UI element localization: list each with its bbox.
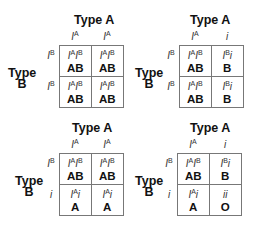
punnett-cell: IAi A — [178, 185, 210, 216]
top-allele: i — [217, 30, 237, 42]
side-label-line2: B — [135, 79, 163, 90]
punnett-cell: IBi B — [212, 46, 244, 77]
punnett-grid: IAIB AB IAIB AB IAi A IAi A — [59, 153, 124, 216]
side-parent-label: TypeB — [8, 68, 36, 90]
punnett-cell: ii O — [210, 185, 242, 216]
genotype: ii — [223, 186, 227, 201]
punnett-cell: IAIB AB — [92, 46, 124, 77]
genotype: IAIB — [100, 47, 115, 62]
genotype: IAIB — [188, 47, 203, 62]
punnett-grid: IAIB AB IBi B IAIB AB IBi B — [179, 45, 244, 108]
punnett-cell: IAIB AB — [60, 77, 92, 108]
left-allele: IB — [45, 157, 57, 169]
genotype: IAIB — [100, 155, 115, 170]
genotype: IBi — [222, 47, 232, 62]
punnett-cell: IAIB AB — [92, 77, 124, 108]
punnett-cell: IAIB AB — [178, 154, 210, 185]
punnett-cell: IAIB AB — [92, 154, 124, 185]
top-allele: IA — [185, 30, 205, 42]
phenotype: B — [223, 93, 231, 106]
phenotype: A — [189, 201, 197, 214]
punnett-cell: IAIB AB — [60, 46, 92, 77]
genotype: IAIB — [188, 78, 203, 93]
top-allele: i — [215, 138, 235, 150]
phenotype: AB — [67, 62, 84, 75]
side-parent-label: TypeB — [135, 68, 163, 90]
phenotype: AB — [187, 62, 204, 75]
side-label-line2: B — [135, 187, 163, 198]
punnett-cell: IBi B — [210, 154, 242, 185]
left-allele: i — [45, 188, 57, 200]
genotype: IBi — [220, 155, 230, 170]
punnett-cell: IAIB AB — [180, 77, 212, 108]
top-allele: IA — [65, 138, 85, 150]
left-allele: IB — [45, 80, 57, 92]
phenotype: AB — [99, 93, 116, 106]
top-parent-label: Type A — [72, 121, 112, 135]
genotype: IAIB — [186, 155, 201, 170]
punnett-cell: IAi A — [60, 185, 92, 216]
side-label-line2: B — [8, 79, 36, 90]
phenotype: AB — [187, 93, 204, 106]
phenotype: A — [103, 201, 111, 214]
top-parent-label: Type A — [190, 13, 230, 27]
phenotype: AB — [185, 170, 202, 183]
genotype: IAIB — [68, 155, 83, 170]
phenotype: B — [223, 62, 231, 75]
phenotype: AB — [67, 170, 84, 183]
left-allele: IB — [163, 157, 175, 169]
genotype: IAi — [70, 186, 80, 201]
punnett-grid: IAIB AB IAIB AB IAIB AB IAIB AB — [59, 45, 124, 108]
genotype: IBi — [222, 78, 232, 93]
top-allele: IA — [97, 30, 117, 42]
phenotype: B — [221, 170, 229, 183]
punnett-cell: IAIB AB — [180, 46, 212, 77]
side-parent-label: TypeB — [135, 176, 163, 198]
punnett-cell: IAi A — [92, 185, 124, 216]
genotype: IAIB — [68, 78, 83, 93]
top-allele: IA — [183, 138, 203, 150]
top-parent-label: Type A — [190, 121, 230, 135]
phenotype: O — [221, 201, 230, 214]
left-allele: IB — [165, 49, 177, 61]
punnett-square: Type ATypeBIAIAIBIB IAIB AB IAIB AB IAIB… — [0, 0, 128, 113]
phenotype: AB — [67, 93, 84, 106]
genotype: IAIB — [100, 78, 115, 93]
left-allele: IB — [45, 49, 57, 61]
punnett-square: Type ATypeBIAiIBi IAIB AB IBi B IAi A ii… — [127, 113, 255, 226]
phenotype: A — [71, 201, 79, 214]
phenotype: AB — [99, 62, 116, 75]
top-allele: IA — [65, 30, 85, 42]
left-allele: i — [163, 188, 175, 200]
top-parent-label: Type A — [74, 13, 114, 27]
genotype: IAi — [102, 186, 112, 201]
side-parent-label: TypeB — [15, 176, 43, 198]
punnett-cell: IAIB AB — [60, 154, 92, 185]
punnett-square: Type ATypeBIAiIBIB IAIB AB IBi B IAIB AB… — [127, 0, 255, 113]
phenotype: AB — [99, 170, 116, 183]
top-allele: IA — [97, 138, 117, 150]
genotype: IAi — [188, 186, 198, 201]
side-label-line2: B — [15, 187, 43, 198]
genotype: IAIB — [68, 47, 83, 62]
left-allele: IB — [165, 80, 177, 92]
punnett-cell: IBi B — [212, 77, 244, 108]
punnett-square: Type ATypeBIAIAIBi IAIB AB IAIB AB IAi A… — [0, 113, 128, 226]
punnett-grid: IAIB AB IBi B IAi A ii O — [177, 153, 242, 216]
